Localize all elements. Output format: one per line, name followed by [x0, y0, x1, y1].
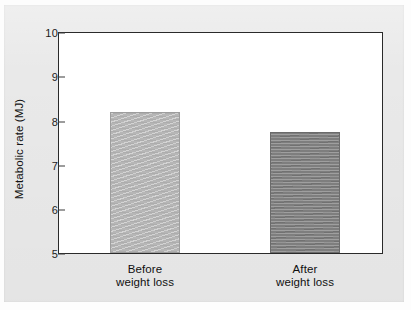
bar-before-weight-loss	[110, 112, 180, 253]
y-axis-ticks: 10 9 8 7 6 5	[26, 0, 58, 310]
figure-page: 10 9 8 7 6 5 Metabolic rate (MJ) Before …	[0, 0, 411, 310]
y-tick-label-7: 7	[36, 160, 58, 172]
x-axis-label-before: Before weight loss	[85, 263, 205, 289]
y-axis-title: Metabolic rate (MJ)	[13, 74, 25, 224]
x-axis-label-after-line1: After	[293, 263, 318, 275]
y-tick-mark-5	[58, 254, 65, 255]
x-axis-label-after: After weight loss	[245, 263, 365, 289]
y-tick-label-9: 9	[36, 71, 58, 83]
y-tick-label-8: 8	[36, 116, 58, 128]
y-tick-mark-9	[58, 77, 65, 78]
x-axis-label-after-line2: weight loss	[245, 276, 365, 289]
y-tick-label-6: 6	[36, 204, 58, 216]
y-tick-mark-8	[58, 122, 65, 123]
y-tick-label-5: 5	[36, 248, 58, 260]
y-tick-label-10: 10	[36, 27, 58, 39]
y-tick-mark-7	[58, 166, 65, 167]
x-axis-label-before-line2: weight loss	[85, 276, 205, 289]
bar-chart: 10 9 8 7 6 5 Metabolic rate (MJ) Before …	[0, 0, 411, 310]
y-tick-mark-10	[58, 33, 65, 34]
x-axis-label-before-line1: Before	[128, 263, 162, 275]
y-tick-mark-6	[58, 210, 65, 211]
bar-after-weight-loss	[270, 132, 340, 253]
